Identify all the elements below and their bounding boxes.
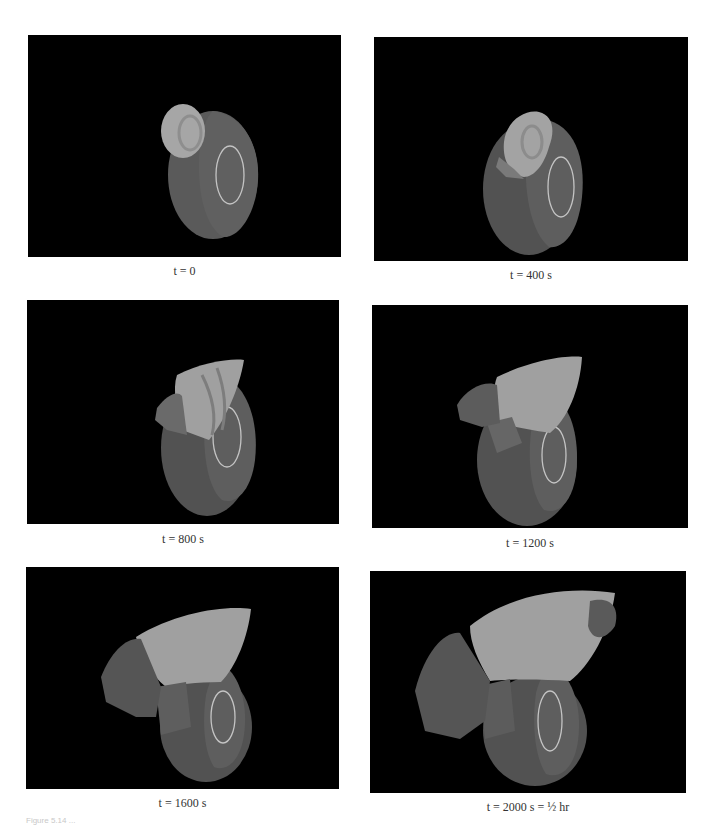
render-t0: [28, 35, 341, 257]
slab-cut-face: [534, 666, 579, 775]
simulation-panel-t400: [374, 37, 688, 261]
debris-block: [156, 682, 191, 735]
cap-plume: [161, 104, 205, 158]
panel-caption-t1200: t = 1200 s: [372, 536, 688, 551]
plume-debris: [457, 383, 500, 427]
render-t800: [27, 300, 339, 524]
render-t1200: [372, 305, 688, 528]
panel-caption-t0: t = 0: [28, 264, 341, 279]
plume-right-edge: [588, 600, 616, 638]
simulation-panel-t1200: [372, 305, 688, 528]
simulation-panel-t800: [27, 300, 339, 524]
panel-caption-t800: t = 800 s: [27, 532, 339, 547]
simulation-panel-t1600: [26, 567, 339, 789]
plume-debris: [155, 393, 187, 435]
panel-caption-t400: t = 400 s: [374, 268, 688, 283]
render-t400: [374, 37, 688, 261]
render-t1600: [26, 567, 339, 789]
panel-caption-t1600: t = 1600 s: [26, 796, 339, 811]
panel-caption-t2000: t = 2000 s = ½ hr: [370, 800, 686, 815]
render-t2000: [370, 571, 686, 793]
simulation-panel-t0: [28, 35, 341, 257]
simulation-panel-t2000: [370, 571, 686, 793]
figure-caption: Figure 5.14 ...: [26, 816, 75, 825]
